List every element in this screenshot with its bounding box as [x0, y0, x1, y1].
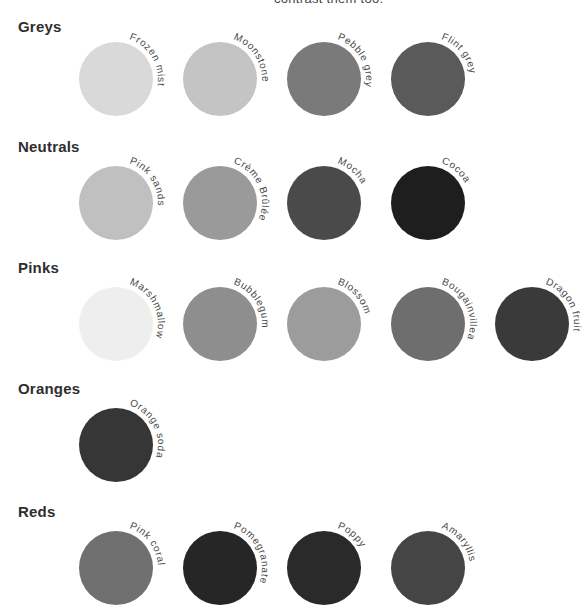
swatch-graphic: Marshmallow [56, 264, 176, 384]
color-swatch: Dragon fruit [472, 264, 586, 384]
top-caption: contrast them too. [274, 0, 383, 6]
swatch-circle [79, 287, 153, 361]
swatch-graphic: Frozen mist [56, 19, 176, 139]
swatch-graphic: Moonstone [160, 19, 280, 139]
color-swatch: Frozen mist [56, 19, 176, 139]
swatch-graphic: Crème Brûlée [160, 143, 280, 263]
swatch-graphic: Pink sands [56, 143, 176, 263]
color-swatch: Orange soda [56, 385, 176, 505]
color-swatch: Marshmallow [56, 264, 176, 384]
swatch-circle [79, 166, 153, 240]
swatch-graphic: Flint grey [368, 19, 488, 139]
swatch-circle [391, 287, 465, 361]
color-swatch: Crème Brûlée [160, 143, 280, 263]
group-heading-pinks: Pinks [18, 259, 59, 276]
color-swatch: Mocha [264, 143, 384, 263]
color-swatch: Flint grey [368, 19, 488, 139]
color-swatch: Pomegranate [160, 508, 280, 615]
swatch-circle [183, 42, 257, 116]
group-heading-greys: Greys [18, 18, 62, 35]
swatch-graphic: Orange soda [56, 385, 176, 505]
swatch-graphic: Cocoa [368, 143, 488, 263]
color-swatch: Cocoa [368, 143, 488, 263]
color-swatch: Blossom [264, 264, 384, 384]
swatch-graphic: Pomegranate [160, 508, 280, 615]
swatch-graphic: Pink coral [56, 508, 176, 615]
color-swatch: Pink coral [56, 508, 176, 615]
swatch-graphic: Bubblegum [160, 264, 280, 384]
swatch-graphic: Bougainvillea [368, 264, 488, 384]
swatch-graphic: Pebble grey [264, 19, 384, 139]
group-heading-reds: Reds [18, 503, 55, 520]
swatch-graphic: Poppy [264, 508, 384, 615]
swatch-circle [183, 166, 257, 240]
swatch-circle [79, 408, 153, 482]
swatch-circle [391, 166, 465, 240]
color-swatch: Bougainvillea [368, 264, 488, 384]
swatch-circle [495, 287, 569, 361]
color-swatch: Amaryllis [368, 508, 488, 615]
swatch-circle [183, 531, 257, 605]
color-swatch: Pink sands [56, 143, 176, 263]
swatch-graphic: Amaryllis [368, 508, 488, 615]
color-swatch: Bubblegum [160, 264, 280, 384]
swatch-circle [391, 531, 465, 605]
swatch-graphic: Blossom [264, 264, 384, 384]
swatch-circle [79, 42, 153, 116]
swatch-circle [287, 42, 361, 116]
swatch-circle [391, 42, 465, 116]
swatch-circle [183, 287, 257, 361]
swatch-circle [287, 166, 361, 240]
color-swatch: Poppy [264, 508, 384, 615]
swatch-circle [287, 531, 361, 605]
swatch-graphic: Dragon fruit [472, 264, 586, 384]
swatch-circle [287, 287, 361, 361]
color-swatch: Moonstone [160, 19, 280, 139]
color-swatch: Pebble grey [264, 19, 384, 139]
swatch-graphic: Mocha [264, 143, 384, 263]
swatch-circle [79, 531, 153, 605]
